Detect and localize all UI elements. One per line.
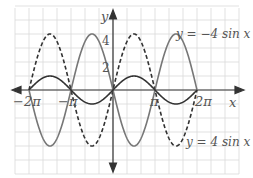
y-axis-arrow-down-icon (110, 163, 117, 172)
x-axis-label: x (229, 95, 237, 110)
y-tick-2: 2 (102, 61, 110, 75)
label-4sinx: y = 4 sin x (185, 135, 250, 149)
x-axis-arrow-right-icon (235, 87, 244, 94)
x-tick-neg-2pi: −2π (13, 94, 41, 109)
y-axis-arrow-up-icon (110, 10, 117, 19)
x-tick-pi: π (149, 94, 159, 109)
sine-graph: y x 4 2 −2π −π π 2π y = −4 sin x y = 4 s… (0, 0, 253, 178)
y-tick-4: 4 (102, 34, 110, 48)
y-axis-label: y (100, 9, 109, 24)
x-axis-arrow-left-icon (12, 87, 21, 94)
label-neg4sinx: y = −4 sin x (175, 27, 251, 41)
x-tick-neg-pi: −π (58, 94, 78, 109)
x-tick-2pi: 2π (194, 94, 212, 109)
